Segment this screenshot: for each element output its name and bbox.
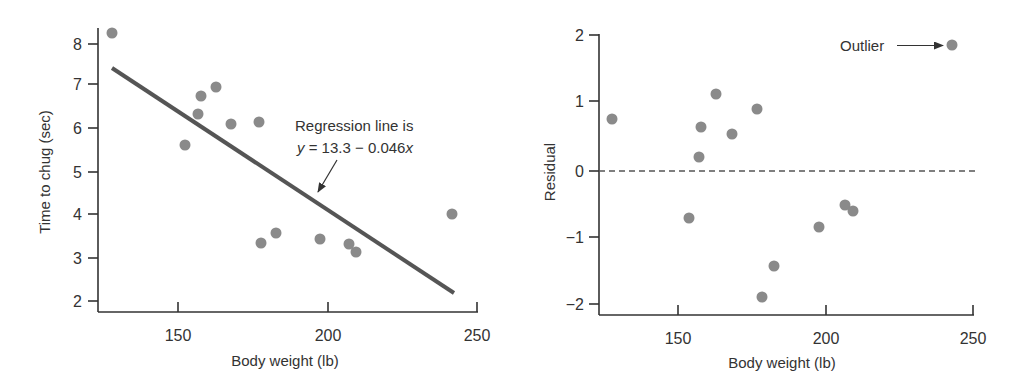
left-ytick-label: 2 [73, 293, 82, 310]
regression-line [112, 68, 454, 293]
data-point [256, 238, 267, 249]
right-residual-chart: 2 1 0 −1 −2 150 200 250 Body weight (lb)… [541, 27, 986, 371]
figure: 8 7 6 5 4 3 2 150 200 250 Body weight (l… [0, 0, 1016, 388]
left-ytick-label: 4 [73, 206, 82, 223]
right-xtick-label: 200 [813, 330, 840, 347]
data-point [211, 82, 222, 93]
residual-point [694, 152, 705, 163]
left-y-ticks: 8 7 6 5 4 3 2 [73, 36, 98, 310]
outlier-annotation: Outlier [840, 37, 943, 54]
right-xtick-label: 150 [665, 330, 692, 347]
data-point [254, 117, 265, 128]
data-point [107, 28, 118, 39]
residual-point [769, 261, 780, 272]
outlier-label: Outlier [840, 37, 884, 54]
left-ytick-label: 7 [73, 76, 82, 93]
right-ytick-label: −1 [566, 229, 584, 246]
right-x-ticks: 150 200 250 [665, 305, 987, 347]
regression-annotation: Regression line is y = 13.3 − 0.046x [295, 117, 413, 192]
left-xtick-label: 150 [165, 327, 192, 344]
residual-point [814, 222, 825, 233]
right-ytick-label: −2 [566, 296, 584, 313]
data-point [315, 234, 326, 245]
residual-point [607, 114, 618, 125]
data-point [196, 91, 207, 102]
eq-x: x [404, 139, 413, 156]
annotation-equation: y = 13.3 − 0.046x [296, 139, 413, 156]
data-point [226, 119, 237, 130]
annotation-line1: Regression line is [295, 117, 413, 134]
eq-body: = 13.3 − 0.046 [305, 139, 406, 156]
data-point [447, 209, 458, 220]
right-y-axis-label: Residual [541, 143, 558, 201]
left-scatter-chart: 8 7 6 5 4 3 2 150 200 250 Body weight (l… [36, 28, 490, 370]
annotation-arrow-icon [318, 160, 337, 192]
residual-point [711, 89, 722, 100]
right-xtick-label: 250 [960, 330, 987, 347]
left-xtick-label: 200 [315, 327, 342, 344]
outlier-point [947, 40, 958, 51]
left-xtick-label: 250 [464, 327, 491, 344]
right-x-axis-label: Body weight (lb) [728, 354, 836, 371]
left-x-axis-label: Body weight (lb) [231, 352, 339, 369]
left-ytick-label: 8 [73, 36, 82, 53]
right-ytick-label: 0 [575, 163, 584, 180]
right-ytick-label: 1 [575, 93, 584, 110]
data-point [351, 247, 362, 258]
left-ytick-label: 6 [73, 120, 82, 137]
left-y-axis-label: Time to chug (sec) [36, 110, 53, 234]
left-ytick-label: 3 [73, 250, 82, 267]
residual-point [757, 292, 768, 303]
left-x-ticks: 150 200 250 [165, 302, 491, 344]
right-ytick-label: 2 [575, 27, 584, 44]
data-point [271, 228, 282, 239]
left-ytick-label: 5 [73, 164, 82, 181]
residual-point [752, 104, 763, 115]
residual-point [848, 206, 859, 217]
residual-point [696, 122, 707, 133]
residual-point [684, 213, 695, 224]
data-point [180, 140, 191, 151]
data-point [193, 109, 204, 120]
residual-point [727, 129, 738, 140]
right-y-ticks: 2 1 0 −1 −2 [566, 27, 599, 313]
